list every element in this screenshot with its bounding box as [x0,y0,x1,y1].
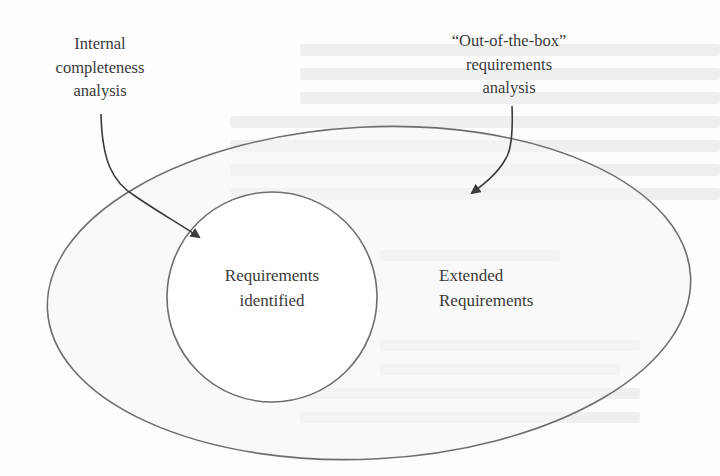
label-line: completeness [56,56,145,80]
label-line: analysis [56,79,145,103]
label-line: requirements [452,53,567,77]
label-line: Internal [56,32,145,56]
label-extended-requirements: Extended Requirements [439,263,533,313]
label-line: Extended [439,263,533,288]
diagram-canvas: Internal completeness analysis “Out-of-t… [0,0,720,476]
label-requirements-identified: Requirements identified [225,263,319,313]
label-internal-completeness-analysis: Internal completeness analysis [56,32,145,103]
label-line: analysis [452,76,567,100]
label-out-of-the-box-requirements-analysis: “Out-of-the-box” requirements analysis [452,29,567,100]
label-line: identified [225,288,319,313]
label-line: Requirements [225,263,319,288]
label-line: “Out-of-the-box” [452,29,567,53]
label-line: Requirements [439,288,533,313]
